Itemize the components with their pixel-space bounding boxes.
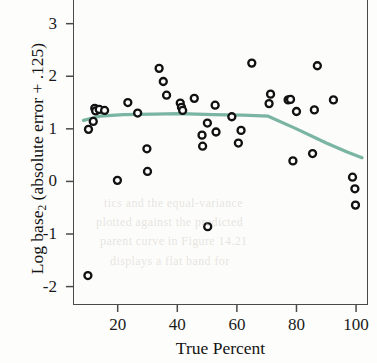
y-axis-ticks [66, 24, 73, 287]
y-axis-label-subscript: 2 [36, 205, 48, 211]
bleedthrough-line: parent curve in Figure 14.21 [100, 234, 248, 249]
x-tick-label: 80 [274, 316, 318, 333]
bleedthrough-line: displays a flat band for [110, 254, 230, 269]
scatter-plot-figure: 3210-1-2 20406080100 tics and the equal-… [0, 0, 377, 363]
y-axis-label: Log base2 (absolute error + .125) [27, 34, 48, 284]
x-tick-label: 60 [215, 316, 259, 333]
x-tick-label: 100 [334, 316, 377, 333]
x-axis-label: True Percent [73, 338, 368, 359]
y-tick-label: 3 [27, 15, 57, 32]
y-axis-label-tail: (absolute error + .125) [27, 43, 47, 205]
y-axis-label-main: Log base [27, 211, 47, 275]
x-tick-label: 20 [96, 316, 140, 333]
bleedthrough-line: tics and the equal-variance [104, 196, 243, 211]
bleedthrough-line: plotted against the predicted [96, 215, 243, 230]
x-axis-ticks [118, 305, 356, 312]
x-tick-label: 40 [155, 316, 199, 333]
